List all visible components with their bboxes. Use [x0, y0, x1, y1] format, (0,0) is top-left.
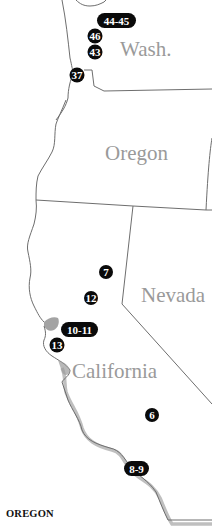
marker-label: 12: [86, 292, 98, 304]
marker-label: 46: [90, 30, 102, 42]
marker-label: 6: [149, 409, 155, 421]
state-label-washington: Wash.: [120, 37, 171, 61]
state-label-oregon: Oregon: [105, 141, 168, 165]
oregon-south-border: [36, 200, 212, 210]
marker-13[interactable]: 13: [50, 338, 65, 353]
marker-10-11[interactable]: 10-11: [61, 322, 98, 337]
marker-37[interactable]: 37: [70, 68, 85, 83]
marker-label: 13: [52, 339, 64, 351]
marker-12[interactable]: 12: [84, 291, 98, 305]
washington-oregon-border: [84, 70, 212, 91]
marker-label: 7: [103, 266, 109, 278]
marker-label: 43: [90, 46, 102, 58]
marker-43[interactable]: 43: [88, 45, 103, 60]
coastline-shadow: [62, 368, 212, 524]
state-label-california: California: [72, 359, 158, 383]
california-south-coast: [62, 382, 212, 520]
marker-7[interactable]: 7: [99, 265, 113, 279]
monterey-bay: [58, 360, 70, 375]
marker-label: 8-9: [129, 463, 144, 475]
oregon-coast-border: [36, 100, 66, 200]
oregon-idaho-border: [206, 138, 212, 210]
puget-sound-border: [76, 0, 106, 6]
marker-46[interactable]: 46: [88, 29, 103, 44]
marker-label: 10-11: [67, 324, 92, 336]
marker-6[interactable]: 6: [145, 408, 159, 422]
section-title: OREGON: [6, 508, 54, 519]
state-label-nevada: Nevada: [141, 283, 206, 307]
marker-label: 44-45: [104, 15, 130, 27]
california-north-coast: [27, 200, 44, 322]
west-coast-map: Wash. Oregon Nevada California 44-45 46 …: [0, 0, 212, 528]
san-francisco-bay: [44, 317, 59, 331]
marker-label: 37: [72, 69, 84, 81]
marker-44-45[interactable]: 44-45: [97, 13, 136, 28]
marker-8-9[interactable]: 8-9: [124, 461, 149, 476]
